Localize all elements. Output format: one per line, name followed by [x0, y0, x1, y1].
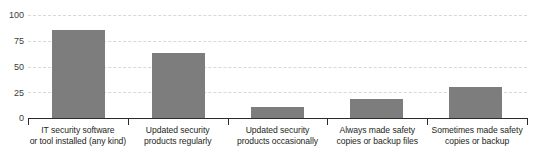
- y-tick-label-75: 75: [0, 37, 24, 46]
- category-label-updated-security-occasionally: Updated security products occasionally: [228, 125, 328, 146]
- bar-chart: 100 75 50 25 0 IT security software or t…: [0, 0, 534, 157]
- x-axis-tick-4: [427, 118, 428, 125]
- category-label-always-made-safety-copies: Always made safety copies or backup file…: [327, 125, 427, 146]
- gridline-100: [28, 15, 527, 16]
- category-label-line-2: copies or backup: [427, 136, 527, 147]
- category-label-line-2: copies or backup files: [327, 136, 427, 147]
- bar-always-made-safety-copies: [350, 99, 403, 118]
- category-label-it-security-software: IT security software or tool installed (…: [28, 125, 128, 146]
- x-axis-line: [28, 118, 527, 119]
- category-label-line-2: products regularly: [128, 136, 228, 147]
- category-label-line-1: Sometimes made safety: [427, 125, 527, 136]
- category-label-line-1: Always made safety: [327, 125, 427, 136]
- category-label-line-1: IT security software: [28, 125, 128, 136]
- category-label-line-1: Updated security: [128, 125, 228, 136]
- bar-updated-security-occasionally: [251, 107, 304, 118]
- category-label-line-2: products occasionally: [228, 136, 328, 147]
- x-axis-tick-end: [527, 118, 528, 125]
- category-label-sometimes-made-safety-copies: Sometimes made safety copies or backup: [427, 125, 527, 146]
- category-label-updated-security-regularly: Updated security products regularly: [128, 125, 228, 146]
- bar-it-security-software: [52, 30, 105, 118]
- y-tick-label-100: 100: [0, 11, 24, 20]
- y-tick-label-0: 0: [0, 114, 24, 123]
- x-axis-tick-2: [228, 118, 229, 125]
- category-label-line-2: or tool installed (any kind): [28, 136, 128, 147]
- y-tick-label-25: 25: [0, 89, 24, 98]
- plot-area: [28, 15, 527, 118]
- x-axis-tick-start: [28, 118, 29, 125]
- bar-sometimes-made-safety-copies: [449, 87, 502, 118]
- bar-updated-security-regularly: [152, 53, 205, 118]
- category-label-line-1: Updated security: [228, 125, 328, 136]
- y-tick-label-50: 50: [0, 63, 24, 72]
- x-axis-tick-1: [128, 118, 129, 125]
- x-axis-tick-3: [327, 118, 328, 125]
